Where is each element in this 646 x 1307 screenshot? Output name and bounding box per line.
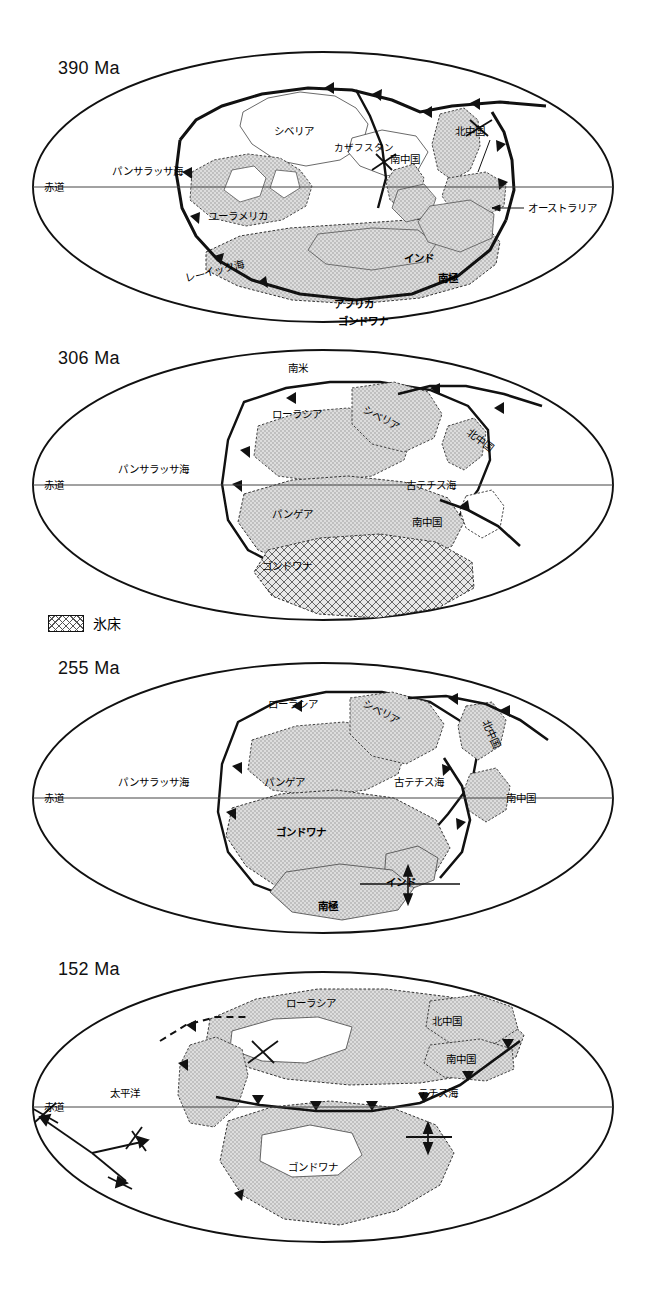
place-label: 南中国 [446,1053,476,1065]
equator-label-152ma: 赤道 [44,1101,65,1113]
place-label: ローラシア [268,698,318,710]
place-label: テチス海 [418,1087,459,1099]
map-panel-255ma: 255 Ma [0,640,646,960]
place-label: 南中国 [412,516,442,528]
place-label: ゴンドワナ [288,1161,338,1173]
place-label: ユーラメリカ [208,210,268,222]
paleogeographic-figure: 390 Ma [0,0,646,1307]
map-graphic-306ma: 赤道 南米 ローラシア シベリア 北中国 パンサラッサ海 古テチス海 パンゲア … [0,330,646,650]
map-graphic-152ma: 赤道 ローラシア 北中国 南中国 テチス海 太平洋 ゴンドワナ [0,945,646,1275]
place-label: パンゲア [264,776,305,788]
place-label: パンサラッサ海 [118,463,190,475]
place-label: 北中国 [432,1015,462,1027]
map-graphic-255ma: 赤道 ローラシア シベリア 北中国 パンサラッサ海 パンゲア 古テチス海 南中国… [0,640,646,960]
place-label: インド [404,252,434,264]
place-label: オーストラリア [528,202,597,214]
place-label: 古テチス海 [394,776,445,788]
equator-label-255ma: 赤道 [44,792,65,804]
equator-label-390ma: 赤道 [44,181,65,193]
map-panel-152ma: 152 Ma [0,945,646,1275]
map-panel-306ma: 306 Ma [0,330,646,650]
equator-label-306ma: 赤道 [44,479,65,491]
place-label: 南中国 [506,792,536,804]
ice-sheet-legend: 氷床 [48,613,121,633]
map-panel-390ma: 390 Ma [0,20,646,340]
place-label: ゴンドワナ [338,315,388,327]
place-label: カザフスタン [334,142,394,153]
place-label: 南米 [288,362,309,374]
ice-sheet-legend-label: 氷床 [93,613,121,633]
place-label: パンゲア [272,508,313,520]
place-label: 南極 [318,900,339,912]
place-label: ローラシア [286,997,336,1009]
place-label: 北中国 [455,125,485,137]
place-label: シベリア [274,125,314,137]
place-label: 古テチス海 [406,479,457,491]
place-label: パンサラッサ海 [118,776,190,788]
place-label: 太平洋 [110,1087,141,1099]
place-label: 南極 [438,272,459,284]
place-label: パンサラッサ海 [112,165,184,177]
place-label: アフリカ [334,298,374,310]
map-graphic-390ma: 赤道 パンサラッサ海 シベリア カザフスタン 南中国 北中国 オーストラリア ユ… [0,20,646,340]
ice-sheet-swatch [48,615,84,632]
place-label: ゴンドワナ [262,560,312,572]
place-label: ローラシア [272,408,322,420]
place-label: ゴンドワナ [276,826,326,838]
place-label: 南中国 [390,153,420,165]
place-label: インド [386,876,416,888]
